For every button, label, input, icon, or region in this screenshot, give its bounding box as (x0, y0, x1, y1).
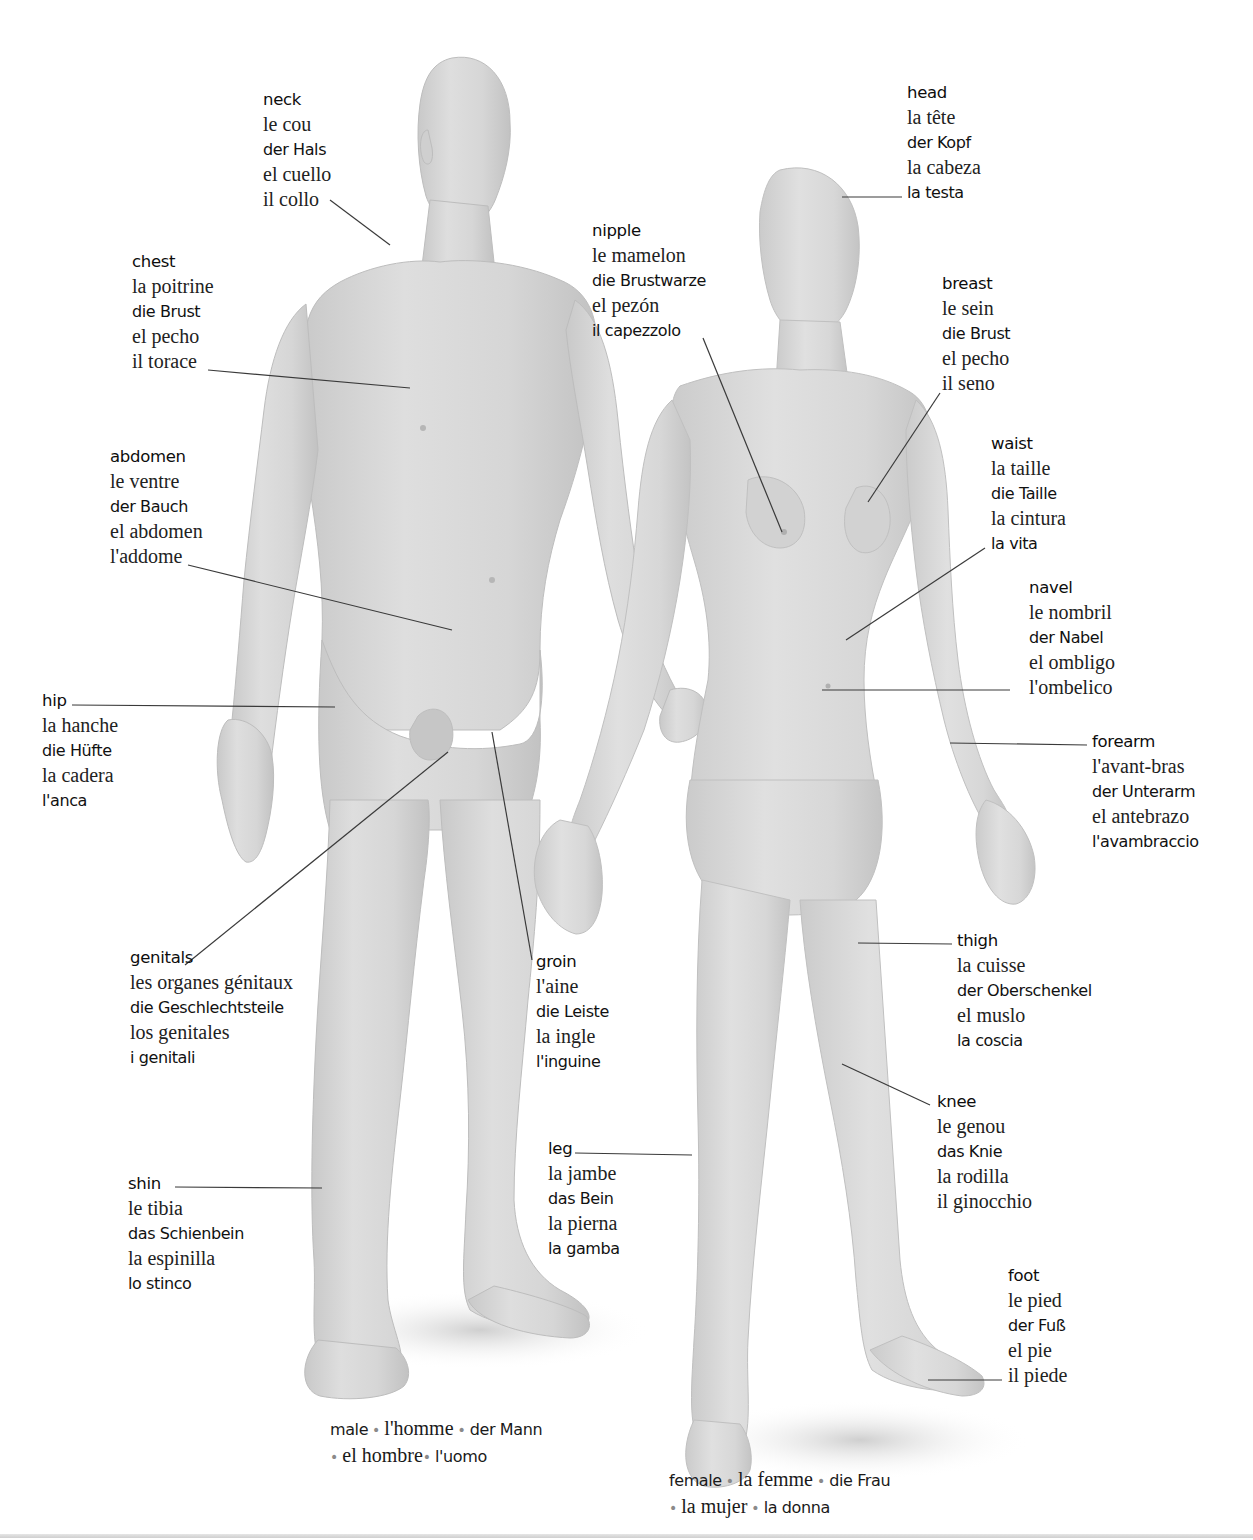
term-es: la ingle (536, 1024, 609, 1049)
term-it: l'inguine (536, 1049, 609, 1074)
caption-male: male•l'homme•der Mann •el hombre•l'uomo (330, 1416, 542, 1470)
term-de: der Nabel (1029, 625, 1115, 650)
term-de: der Fuß (1008, 1313, 1067, 1338)
term-fr: la poitrine (132, 274, 214, 299)
term-it: i genitali (130, 1045, 293, 1070)
label-leg: leg la jambe das Bein la pierna la gamba (548, 1136, 620, 1261)
term-fr: la cuisse (957, 953, 1092, 978)
term-it: la gamba (548, 1236, 620, 1261)
term-en: nipple (592, 218, 706, 243)
term-de: die Taille (991, 481, 1066, 506)
caption-male-line-1: male•l'homme•der Mann (330, 1416, 542, 1443)
bullet-separator: • (454, 1422, 470, 1438)
term-es: el ombligo (1029, 650, 1115, 675)
label-genitals: genitals les organes génitaux die Geschl… (130, 945, 293, 1070)
term-it: il torace (132, 349, 214, 374)
caption-de: die Frau (829, 1471, 890, 1490)
term-fr: les organes génitaux (130, 970, 293, 995)
term-it: l'ombelico (1029, 675, 1115, 700)
term-fr: le nombril (1029, 600, 1115, 625)
caption-it: l'uomo (435, 1447, 487, 1466)
term-en: hip (42, 688, 118, 713)
term-de: der Unterarm (1092, 779, 1199, 804)
term-de: der Oberschenkel (957, 978, 1092, 1003)
term-es: la pierna (548, 1211, 620, 1236)
caption-es: la mujer (681, 1495, 747, 1517)
label-hip: hip la hanche die Hüfte la cadera l'anca (42, 688, 118, 813)
term-es: el antebrazo (1092, 804, 1199, 829)
label-thigh: thigh la cuisse der Oberschenkel el musl… (957, 928, 1092, 1053)
term-es: el muslo (957, 1003, 1092, 1028)
bullet-separator: • (330, 1449, 342, 1465)
term-de: die Brust (132, 299, 214, 324)
term-fr: le genou (937, 1114, 1032, 1139)
term-fr: l'aine (536, 974, 609, 999)
term-en: head (907, 80, 981, 105)
term-es: el pecho (942, 346, 1010, 371)
term-fr: la hanche (42, 713, 118, 738)
body-diagram: neck le cou der Hals el cuello il collo … (0, 0, 1253, 1540)
term-de: die Brustwarze (592, 268, 706, 293)
term-de: das Schienbein (128, 1221, 244, 1246)
term-it: il seno (942, 371, 1010, 396)
caption-female: female•la femme•die Frau •la mujer•la do… (669, 1467, 890, 1521)
term-fr: l'avant-bras (1092, 754, 1199, 779)
page-bottom-rule (0, 1534, 1253, 1538)
term-en: neck (263, 87, 331, 112)
bullet-separator: • (813, 1473, 829, 1489)
term-es: la cabeza (907, 155, 981, 180)
term-en: thigh (957, 928, 1092, 953)
term-it: il ginocchio (937, 1189, 1032, 1214)
term-en: foot (1008, 1263, 1067, 1288)
label-chest: chest la poitrine die Brust el pecho il … (132, 249, 214, 374)
bullet-separator: • (669, 1500, 681, 1516)
term-fr: le mamelon (592, 243, 706, 268)
term-it: il piede (1008, 1363, 1067, 1388)
label-groin: groin l'aine die Leiste la ingle l'ingui… (536, 949, 609, 1074)
term-fr: la jambe (548, 1161, 620, 1186)
term-de: der Hals (263, 137, 331, 162)
caption-fr: l'homme (384, 1417, 453, 1439)
term-en: forearm (1092, 729, 1199, 754)
term-fr: le tibia (128, 1196, 244, 1221)
caption-male-line-2: •el hombre•l'uomo (330, 1443, 542, 1470)
term-es: la rodilla (937, 1164, 1032, 1189)
bullet-separator: • (747, 1500, 763, 1516)
term-de: die Brust (942, 321, 1010, 346)
term-en: groin (536, 949, 609, 974)
term-en: waist (991, 431, 1066, 456)
label-knee: knee le genou das Knie la rodilla il gin… (937, 1089, 1032, 1214)
term-fr: le sein (942, 296, 1010, 321)
term-fr: la tête (907, 105, 981, 130)
term-es: el pie (1008, 1338, 1067, 1363)
term-fr: le cou (263, 112, 331, 137)
caption-it: la donna (764, 1498, 830, 1517)
label-head: head la tête der Kopf la cabeza la testa (907, 80, 981, 205)
label-nipple: nipple le mamelon die Brustwarze el pezó… (592, 218, 706, 343)
caption-female-line-1: female•la femme•die Frau (669, 1467, 890, 1494)
term-de: die Hüfte (42, 738, 118, 763)
caption-fr: la femme (738, 1468, 813, 1490)
term-it: l'avambraccio (1092, 829, 1199, 854)
label-neck: neck le cou der Hals el cuello il collo (263, 87, 331, 212)
label-shin: shin le tibia das Schienbein la espinill… (128, 1171, 244, 1296)
bullet-separator: • (368, 1422, 384, 1438)
term-de: die Leiste (536, 999, 609, 1024)
term-it: la testa (907, 180, 981, 205)
term-en: breast (942, 271, 1010, 296)
caption-es: el hombre (342, 1444, 423, 1466)
label-foot: foot le pied der Fuß el pie il piede (1008, 1263, 1067, 1388)
term-de: der Bauch (110, 494, 203, 519)
term-en: knee (937, 1089, 1032, 1114)
term-de: das Bein (548, 1186, 620, 1211)
term-es: el abdomen (110, 519, 203, 544)
term-es: la cintura (991, 506, 1066, 531)
term-it: l'addome (110, 544, 203, 569)
term-es: el pecho (132, 324, 214, 349)
caption-female-line-2: •la mujer•la donna (669, 1494, 890, 1521)
term-en: leg (548, 1136, 620, 1161)
term-fr: le ventre (110, 469, 203, 494)
term-fr: le pied (1008, 1288, 1067, 1313)
caption-en: male (330, 1420, 368, 1439)
term-en: genitals (130, 945, 293, 970)
